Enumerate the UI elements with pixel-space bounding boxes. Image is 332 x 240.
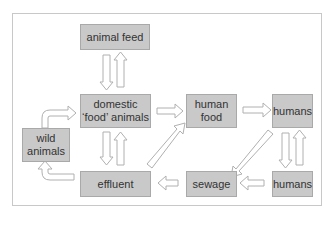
node-human-food: human food: [186, 94, 237, 128]
arrow-down-humans-to-humans: [279, 133, 292, 168]
arrow-up-humans-to-humans: [293, 130, 306, 165]
arrow-up-domestic-to-feed: [114, 52, 127, 87]
node-effluent: effluent: [80, 171, 151, 197]
node-label: humans: [273, 178, 312, 191]
node-sewage: sewage: [186, 171, 237, 197]
node-label: effluent: [98, 178, 134, 191]
node-label-line: domestic: [93, 98, 137, 110]
arrow-down-feed-to-domestic: [100, 55, 113, 90]
arrow-right-domestic-to-food: [157, 104, 183, 118]
node-label-line: human: [195, 98, 229, 110]
node-label: domestic ‘food’ animals: [82, 98, 149, 124]
arrow-right-food-to-humans: [243, 103, 271, 117]
node-humans-top: humans: [272, 94, 313, 128]
arrow-diagonal-effluent-to-food: [147, 123, 185, 168]
node-label-line: food: [201, 111, 222, 123]
node-label: animal feed: [87, 31, 144, 44]
arrow-curve-effluent-to-wild: [38, 161, 74, 180]
arrow-left-sewage-to-effluent: [158, 176, 178, 190]
node-label: sewage: [193, 178, 231, 191]
node-label: wild animals: [27, 132, 65, 158]
node-label-line: wild: [37, 132, 56, 144]
node-label-line: animals: [27, 145, 65, 157]
node-label: human food: [195, 98, 229, 124]
arrow-curve-wild-to-domestic: [42, 106, 76, 128]
arrow-up-effluent-to-domestic: [114, 132, 127, 165]
arrow-diagonal-humans-to-sewage: [231, 130, 273, 177]
node-wild-animals: wild animals: [22, 128, 70, 162]
node-humans-bottom: humans: [272, 171, 313, 197]
node-label: humans: [273, 105, 312, 118]
arrow-left-humans-to-sewage: [240, 176, 264, 190]
node-animal-feed: animal feed: [80, 24, 150, 50]
arrow-down-domestic-to-effluent: [100, 132, 113, 165]
node-label-line: ‘food’ animals: [82, 111, 149, 123]
node-domestic-food-animals: domestic ‘food’ animals: [80, 94, 151, 128]
